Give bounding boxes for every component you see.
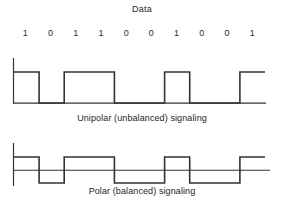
unipolar-waveform-svg xyxy=(0,52,284,108)
data-bit: 1 xyxy=(164,26,189,40)
unipolar-waveform-plot xyxy=(0,52,284,108)
polar-axes xyxy=(13,143,270,186)
data-bit: 0 xyxy=(139,26,164,40)
data-bit: 0 xyxy=(38,26,63,40)
data-bit: 1 xyxy=(89,26,114,40)
polar-caption: Polar (balanced) signaling xyxy=(0,186,284,196)
data-bit-row: 1 0 1 1 0 0 1 0 0 1 xyxy=(13,26,265,40)
unipolar-signal-trace xyxy=(14,72,265,103)
data-bit: 0 xyxy=(114,26,139,40)
data-bit: 0 xyxy=(215,26,240,40)
data-bit: 0 xyxy=(189,26,214,40)
data-bit: 1 xyxy=(240,26,265,40)
data-bit: 1 xyxy=(63,26,88,40)
polar-waveform-plot xyxy=(0,140,284,192)
signaling-figure: Data 1 0 1 1 0 0 1 0 0 1 Unipolar (unbal… xyxy=(0,0,284,213)
data-bit: 1 xyxy=(13,26,38,40)
unipolar-axes xyxy=(13,58,266,104)
polar-waveform-svg xyxy=(0,140,284,192)
unipolar-caption: Unipolar (unbalanced) signaling xyxy=(0,113,284,123)
figure-title: Data xyxy=(0,4,284,14)
